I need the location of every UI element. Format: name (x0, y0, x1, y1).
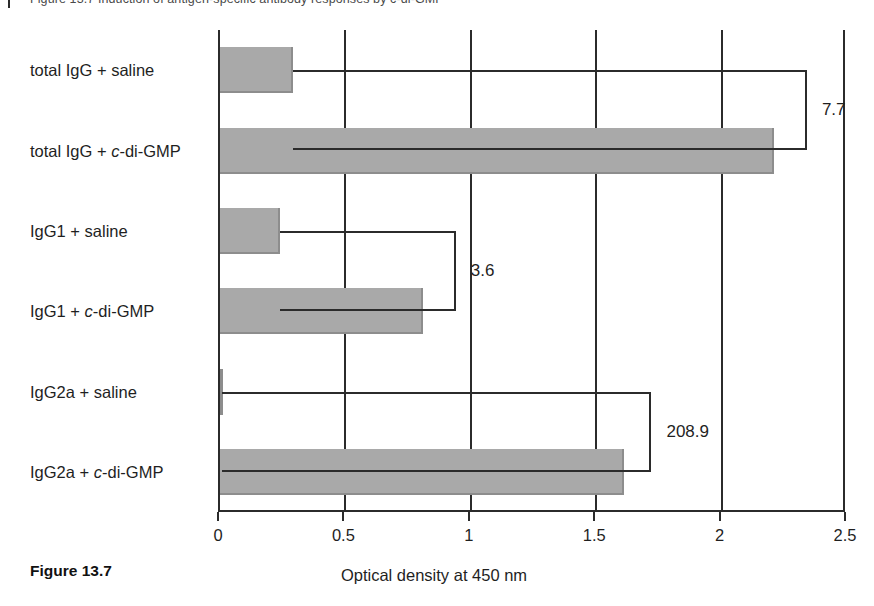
bar-0 (220, 47, 293, 93)
fold-change-label-2: 208.9 (666, 422, 709, 442)
x-tick-label-2: 1 (464, 526, 473, 545)
fold-change-label-0: 7.7 (822, 100, 846, 120)
category-label-5: IgG2a + c-di-GMP (30, 462, 200, 481)
fold-change-bracket-2 (222, 392, 651, 472)
category-label-1: total IgG + c-di-GMP (30, 141, 200, 160)
category-label-column: total IgG + salinetotal IgG + c-di-GMPIg… (0, 30, 212, 512)
x-tick-label-1: 0.5 (332, 526, 355, 545)
fold-change-label-1: 3.6 (471, 261, 495, 281)
x-tick-1 (342, 512, 344, 521)
fold-change-bracket-1 (280, 231, 456, 311)
category-label-3: IgG1 + c-di-GMP (30, 302, 200, 321)
x-tick-5 (844, 512, 846, 521)
figure-13-7: total IgG + salinetotal IgG + c-di-GMPIg… (0, 0, 874, 606)
bar-2 (220, 208, 280, 254)
category-label-0: total IgG + saline (30, 61, 200, 80)
x-axis-title: Optical density at 450 nm (341, 566, 527, 585)
x-tick-label-3: 1.5 (583, 526, 606, 545)
category-label-4: IgG2a + saline (30, 382, 200, 401)
fold-change-bracket-0 (293, 70, 807, 150)
x-tick-0 (217, 512, 219, 521)
figure-number-caption: Figure 13.7 (30, 562, 112, 580)
x-tick-2 (468, 512, 470, 521)
x-tick-label-0: 0 (213, 526, 222, 545)
bar-chart-plot-area: 7.73.6208.9 (218, 30, 845, 512)
x-tick-label-5: 2.5 (834, 526, 857, 545)
x-tick-label-4: 2 (715, 526, 724, 545)
x-tick-4 (719, 512, 721, 521)
x-tick-3 (593, 512, 595, 521)
category-label-2: IgG1 + saline (30, 221, 200, 240)
